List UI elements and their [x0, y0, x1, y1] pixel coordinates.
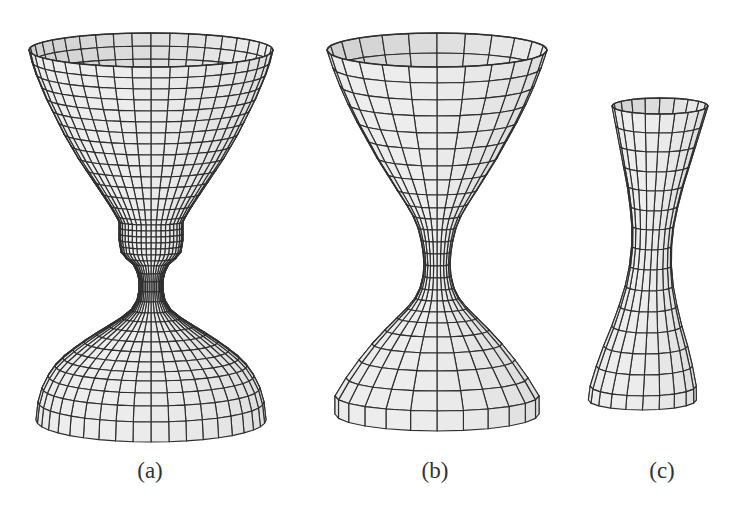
panel-label-c: (c) — [649, 458, 675, 484]
wireframe-surface-c — [588, 98, 708, 410]
panel-label-b: (b) — [422, 458, 449, 484]
wireframe-surface-b — [327, 33, 547, 431]
panel-label-a: (a) — [137, 458, 163, 484]
figure-canvas — [0, 0, 741, 509]
wireframe-surface-a — [29, 33, 273, 442]
